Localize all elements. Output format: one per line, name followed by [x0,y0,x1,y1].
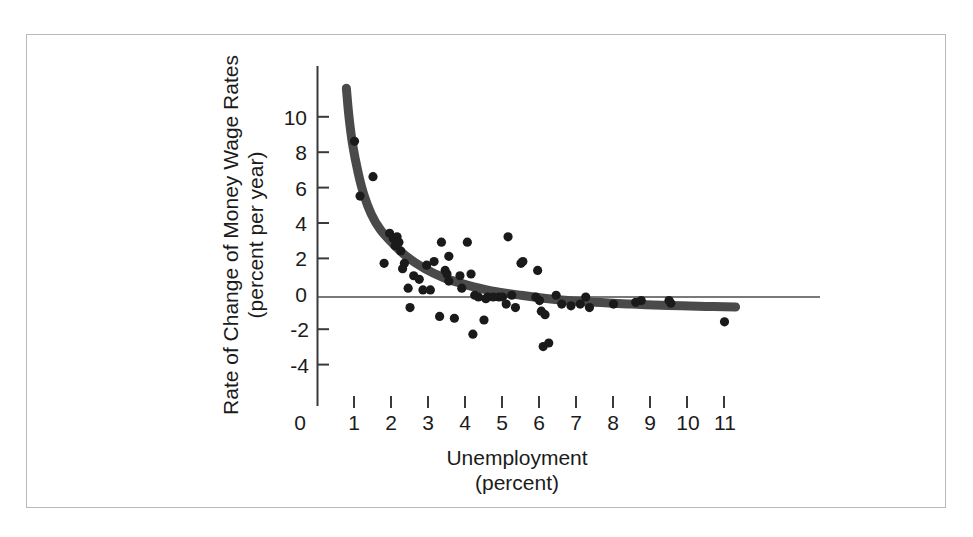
x-tick-label: 9 [644,412,656,433]
y-tick-marks [317,117,329,365]
data-point [355,192,364,201]
y-tick-label: 6 [295,178,307,199]
data-point [666,299,675,308]
data-point [404,284,413,293]
x-tick-label: 1 [348,412,360,433]
data-point [455,271,464,280]
figure-root: 10 8 6 4 2 0 -2 -4 0 1 2 3 4 5 6 7 8 9 1… [0,0,973,537]
y-tick-label: 0 [295,284,307,305]
data-point [581,292,590,301]
data-point [479,315,488,324]
data-point [350,137,359,146]
fitted-phillips-curve [346,88,735,307]
data-point [394,238,403,247]
data-point [502,299,511,308]
y-axis-title-line2: (percent per year) [244,55,269,415]
data-point [435,312,444,321]
data-point [557,299,566,308]
data-point [444,276,453,285]
data-point [540,310,549,319]
data-point [585,303,594,312]
x-tick-label: 11 [714,412,736,433]
y-tick-label: 10 [284,107,307,128]
x-tick-label: 0 [294,412,306,433]
data-point [457,284,466,293]
data-point [533,266,542,275]
data-point [398,264,407,273]
data-point [566,301,575,310]
data-point [609,299,618,308]
data-point [405,303,414,312]
x-tick-label: 7 [570,412,582,433]
y-tick-label: -2 [290,319,309,340]
data-point [466,269,475,278]
x-axis-title-line1: Unemployment [446,446,587,471]
data-point [518,257,527,266]
data-point [380,259,389,268]
data-point [535,296,544,305]
data-point [415,275,424,284]
x-tick-label: 10 [676,412,699,433]
data-point [437,238,446,247]
data-point [720,317,729,326]
x-tick-marks [354,396,724,408]
data-point [544,338,553,347]
x-tick-label: 5 [496,412,508,433]
data-point [468,330,477,339]
data-point [444,252,453,261]
x-tick-label: 6 [533,412,545,433]
x-tick-label: 8 [607,412,619,433]
y-tick-label: -4 [290,355,309,376]
y-tick-label: 4 [295,213,307,234]
data-point [552,291,561,300]
y-tick-label: 8 [295,142,307,163]
x-tick-label: 2 [385,412,397,433]
x-tick-label: 3 [422,412,434,433]
scatter-points-group [350,137,729,352]
x-axis-title: Unemployment (percent) [446,446,587,496]
data-point [463,238,472,247]
data-point [503,232,512,241]
data-point [396,246,405,255]
y-axis-title-line1: Rate of Change of Money Wage Rates [219,55,244,415]
x-axis-title-line2: (percent) [446,471,587,496]
data-point [450,314,459,323]
data-point [511,303,520,312]
data-point [426,285,435,294]
data-point [507,291,516,300]
y-axis-title: Rate of Change of Money Wage Rates (perc… [219,55,269,415]
x-tick-label: 4 [459,412,471,433]
data-point [429,257,438,266]
data-point [637,296,646,305]
data-point [368,172,377,181]
y-tick-label: 2 [295,248,307,269]
